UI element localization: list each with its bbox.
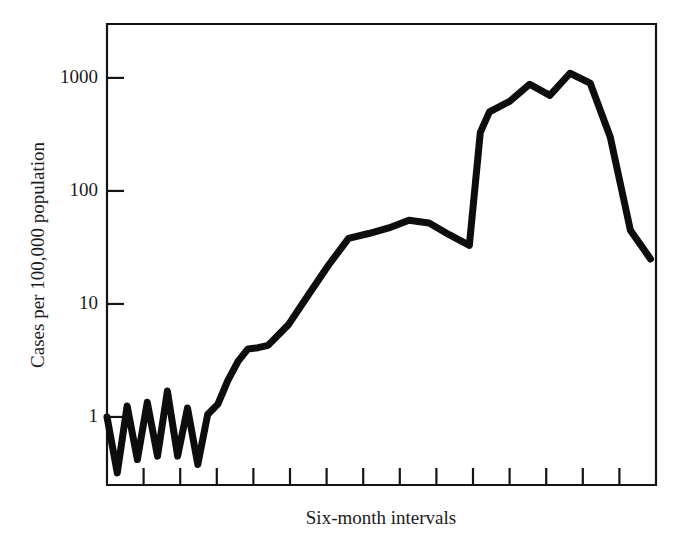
y-tick-label-group: 1101001000 — [60, 66, 98, 426]
y-axis-title: Cases per 100,000 population — [27, 142, 48, 368]
y-tick-label-1: 1 — [89, 405, 99, 426]
x-tick-group — [144, 468, 620, 485]
y-tick-label-10: 10 — [79, 292, 98, 313]
y-tick-label-100: 100 — [70, 179, 99, 200]
x-axis-title: Six-month intervals — [306, 507, 456, 528]
y-tick-group — [107, 78, 124, 417]
y-tick-label-1000: 1000 — [60, 66, 98, 87]
line-chart: 1101001000 Six-month intervals Cases per… — [0, 0, 694, 553]
data-series-group — [107, 73, 651, 473]
chart-container: 1101001000 Six-month intervals Cases per… — [0, 0, 694, 553]
data-series-line-0 — [107, 73, 651, 473]
